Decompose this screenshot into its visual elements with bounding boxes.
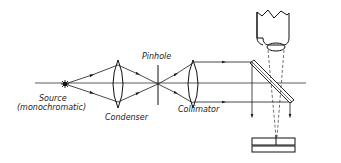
rays-source-to-condenser — [65, 65, 118, 102]
optical-setup-diagram: Source (monochromatic) Condenser Pinhole… — [0, 0, 341, 163]
sample-plates — [252, 135, 295, 152]
rays-condenser-to-pinhole — [118, 65, 158, 102]
rays-collimated — [193, 62, 292, 102]
source-label: Source — [39, 94, 67, 103]
diagram-svg: Source (monochromatic) Condenser Pinhole… — [0, 0, 341, 163]
condenser-label: Condenser — [105, 113, 149, 122]
collimator-label: Collimator — [178, 105, 220, 114]
microscope-icon — [257, 10, 289, 51]
pinhole-label: Pinhole — [142, 52, 171, 61]
source-sublabel: (monochromatic) — [17, 103, 86, 112]
